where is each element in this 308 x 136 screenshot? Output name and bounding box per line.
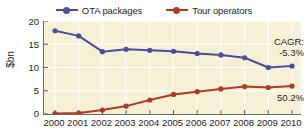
y-tick-0: 0 <box>23 109 39 119</box>
cagr-tour-operators-value: 50.2% <box>277 92 304 103</box>
data-point <box>124 103 129 108</box>
legend-item-ota-packages: OTA packages <box>56 5 142 16</box>
legend-label-tour-operators: Tour operators <box>192 5 252 16</box>
y-tick-15: 15 <box>23 40 39 50</box>
legend-label-ota-packages: OTA packages <box>82 5 142 16</box>
data-point <box>218 52 223 57</box>
data-point <box>52 28 57 33</box>
data-point <box>100 107 105 112</box>
data-point <box>52 111 57 114</box>
chart-legend: OTA packages Tour operators <box>0 1 308 19</box>
y-axis-title: $bn <box>5 40 16 80</box>
x-tick-2010: 2010 <box>276 117 306 128</box>
data-point <box>100 49 105 54</box>
series-canvas <box>44 21 301 114</box>
data-point <box>195 89 200 94</box>
legend-item-tour-operators: Tour operators <box>166 5 252 16</box>
data-point <box>147 48 152 53</box>
y-axis-tick-labels: 20 15 10 5 0 <box>20 0 39 136</box>
data-point <box>242 84 247 89</box>
chart-figure: OTA packages Tour operators $bn 20 15 10… <box>0 0 308 136</box>
y-tick-20: 20 <box>23 17 39 27</box>
data-point <box>76 33 81 38</box>
data-point <box>218 86 223 91</box>
data-point <box>195 51 200 56</box>
data-point <box>242 55 247 60</box>
legend-marker-tour-operators <box>166 6 188 15</box>
data-point <box>266 85 271 90</box>
cagr-title-label: CAGR: <box>274 36 304 47</box>
x-axis-tick-labels: 2000200120022003200420052006200720082009… <box>43 117 300 133</box>
y-tick-5: 5 <box>23 86 39 96</box>
data-point <box>171 92 176 97</box>
plot-area <box>43 21 301 115</box>
data-point <box>124 47 129 52</box>
data-point <box>171 49 176 54</box>
legend-marker-ota-packages <box>56 6 78 15</box>
data-point <box>289 64 294 69</box>
data-point <box>266 65 271 70</box>
y-tick-10: 10 <box>23 63 39 73</box>
data-point <box>289 84 294 89</box>
data-point <box>76 110 81 114</box>
data-point <box>147 97 152 102</box>
cagr-ota-packages-value: -5.3% <box>279 47 304 58</box>
